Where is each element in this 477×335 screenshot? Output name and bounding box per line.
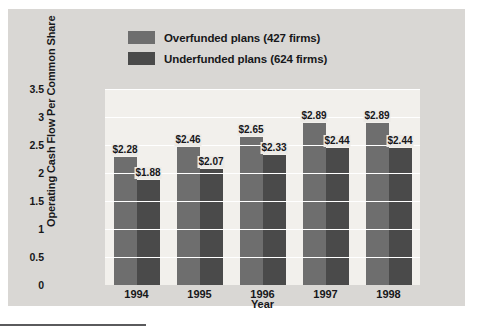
- bar: [303, 123, 326, 285]
- bar-group: [240, 89, 286, 285]
- legend-item-overfunded: Overfunded plans (427 firms): [128, 30, 327, 45]
- bar: [263, 155, 286, 285]
- bar-value-label: $2.65: [237, 124, 264, 136]
- footer-rule: [0, 324, 146, 326]
- bar-value-label: $2.46: [174, 134, 201, 146]
- bar-value-label: $2.44: [386, 135, 413, 147]
- legend-label-overfunded: Overfunded plans (427 firms): [164, 32, 320, 44]
- y-tick-label: 0: [10, 279, 44, 291]
- y-tick-label: 0.5: [10, 251, 44, 263]
- y-tick-label: 3: [10, 111, 44, 123]
- legend-label-underfunded: Underfunded plans (624 firms): [164, 53, 327, 65]
- bar-value-label: $2.07: [197, 156, 224, 168]
- gridline: [105, 89, 420, 90]
- bar: [389, 148, 412, 285]
- bar-value-label: $2.89: [363, 110, 390, 122]
- legend-swatch-overfunded: [128, 31, 155, 44]
- legend-item-underfunded: Underfunded plans (624 firms): [128, 51, 327, 66]
- gridline: [105, 257, 420, 258]
- bar-group: [177, 89, 223, 285]
- y-tick-label: 1: [10, 223, 44, 235]
- y-axis-title: Operating Cash Flow Per Common Share: [45, 27, 57, 227]
- bar-value-label: $1.88: [134, 167, 161, 179]
- bar: [114, 157, 137, 285]
- bar: [177, 147, 200, 285]
- bar-value-label: $2.89: [300, 110, 327, 122]
- bar: [137, 180, 160, 285]
- figure-card: Overfunded plans (427 firms) Underfunded…: [8, 9, 465, 306]
- bar-value-label: $2.33: [260, 142, 287, 154]
- y-tick-label: 1.5: [10, 195, 44, 207]
- gridline: [105, 201, 420, 202]
- y-tick-label: 2: [10, 167, 44, 179]
- bar-value-label: $2.28: [111, 144, 138, 156]
- legend-swatch-underfunded: [128, 52, 155, 65]
- chart-legend: Overfunded plans (427 firms) Underfunded…: [128, 30, 327, 66]
- x-axis-title: Year: [105, 298, 420, 310]
- y-tick-label: 2.5: [10, 139, 44, 151]
- bar-value-label: $2.44: [323, 135, 350, 147]
- gridline: [105, 229, 420, 230]
- bar-group: [114, 89, 160, 285]
- bar: [366, 123, 389, 285]
- y-tick-label: 3.5: [10, 83, 44, 95]
- bar: [200, 169, 223, 285]
- bar: [326, 148, 349, 285]
- bar: [240, 137, 263, 285]
